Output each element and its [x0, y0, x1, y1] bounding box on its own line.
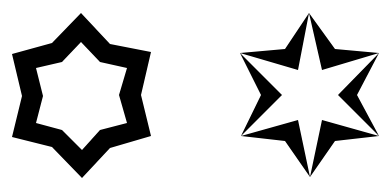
- figure-canvas: [0, 0, 385, 188]
- layered-star-inner: [240, 13, 379, 177]
- layered-star-icon: [240, 13, 379, 177]
- hollow-star-icon: [12, 13, 151, 178]
- hollow-star-outline: [12, 13, 151, 178]
